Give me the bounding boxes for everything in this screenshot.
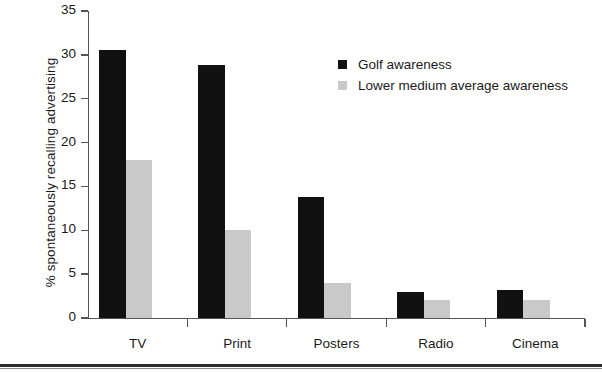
bar-posters-lower-medium — [324, 283, 351, 318]
bar-cinema-lower-medium — [523, 300, 550, 318]
bottom-rule — [0, 364, 602, 367]
x-category-label-tv: TV — [88, 336, 188, 351]
x-category-label-cinema: Cinema — [485, 336, 585, 351]
legend-swatch-icon — [338, 60, 347, 69]
bar-chart: % spontaneously recalling advertising 35… — [0, 0, 602, 373]
legend-item-lower-medium-average-awareness: Lower medium average awareness — [338, 75, 568, 96]
x-tick-mark — [187, 319, 188, 327]
x-tick-mark — [286, 319, 287, 327]
legend: Golf awarenessLower medium average aware… — [338, 54, 568, 96]
bar-radio-golf — [397, 292, 424, 318]
bottom-rule-secondary — [0, 368, 602, 369]
legend-label: Lower medium average awareness — [358, 78, 568, 93]
x-category-label-posters: Posters — [287, 336, 387, 351]
bar-cinema-golf — [497, 290, 524, 318]
legend-label: Golf awareness — [358, 57, 452, 72]
x-tick-mark — [485, 319, 486, 327]
bars-layer — [0, 0, 602, 319]
x-category-label-print: Print — [187, 336, 287, 351]
x-category-label-radio: Radio — [386, 336, 486, 351]
bar-tv-lower-medium — [126, 160, 153, 318]
bar-posters-golf — [298, 197, 325, 318]
legend-item-golf-awareness: Golf awareness — [338, 54, 568, 75]
legend-swatch-icon — [338, 81, 347, 90]
x-tick-mark — [584, 319, 585, 327]
bar-radio-lower-medium — [424, 300, 451, 318]
bar-tv-golf — [99, 50, 126, 318]
bar-print-golf — [198, 65, 225, 318]
x-tick-mark — [386, 319, 387, 327]
bar-print-lower-medium — [225, 230, 252, 318]
